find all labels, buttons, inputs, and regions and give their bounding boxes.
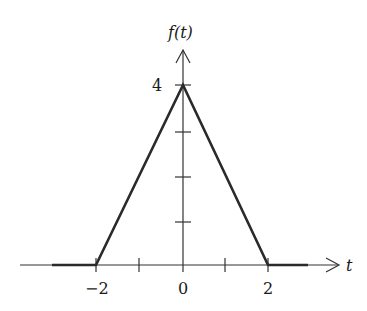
x-tick-label-0: 0 [178,279,188,298]
x-tick-label-neg2: −2 [85,279,109,298]
y-tick-label-4: 4 [152,76,162,95]
function-curve [52,85,308,265]
triangle-pulse-chart: f(t) t 4 −2 0 2 [0,0,367,311]
y-axis-label: f(t) [167,23,193,42]
x-axis-label: t [346,256,353,275]
x-tick-label-2: 2 [263,279,273,298]
